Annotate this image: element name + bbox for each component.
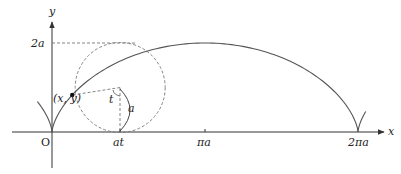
radius-label: a [128, 102, 135, 115]
angle-label: t [109, 93, 114, 106]
two-pi-a-label: 2πa [347, 136, 369, 149]
angle-arc [113, 90, 120, 96]
y-axis-label: y [48, 5, 56, 18]
at-label: at [113, 136, 125, 149]
two-a-label: 2a [30, 37, 45, 50]
pi-a-label: πa [196, 136, 211, 149]
cycloid-curve-left [37, 102, 52, 132]
x-axis-label: x [388, 125, 395, 138]
point-label: (x, y) [53, 92, 81, 105]
cycloid-curve [52, 43, 358, 132]
origin-label: O [41, 136, 50, 149]
cycloid-curve-right [358, 112, 366, 132]
cycloid-diagram: y x O 2a (x, y) t a at πa 2πa [0, 0, 401, 174]
